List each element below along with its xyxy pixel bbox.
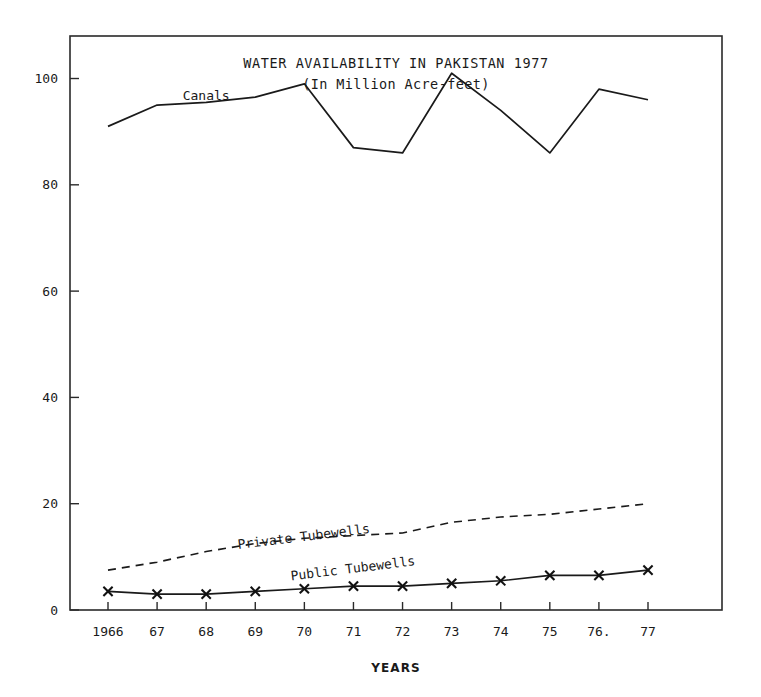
x-axis-ticks [108, 602, 648, 610]
x-axis-tick-label: 68 [198, 624, 214, 639]
y-axis-tick-label: 0 [50, 603, 58, 618]
x-axis-tick-label: 67 [149, 624, 165, 639]
x-axis-tick-label: 76. [587, 624, 610, 639]
x-axis-tick-label: 70 [297, 624, 313, 639]
plot-frame [70, 36, 722, 610]
series-annotation-layer: CanalsPrivate TubewellsPublic Tubewells [183, 88, 416, 584]
y-axis-tick-label: 40 [42, 390, 58, 405]
x-axis-tick-label: 75 [542, 624, 558, 639]
chart-title: WATER AVAILABILITY IN PAKISTAN 1977 [243, 55, 548, 71]
x-axis-tick-label: 72 [395, 624, 411, 639]
y-axis-tick-label: 80 [42, 177, 58, 192]
y-axis-tick-label: 60 [42, 284, 58, 299]
y-axis-tick-label: 20 [42, 496, 58, 511]
x-axis-tick-label: 1966 [92, 624, 123, 639]
chart-figure: WATER AVAILABILITY IN PAKISTAN 1977 (In … [0, 0, 761, 697]
x-axis-tick-labels: 196667686970717273747576.77 [92, 624, 655, 639]
series-line-public-tubewells [108, 570, 648, 594]
x-axis-tick-label: 74 [493, 624, 509, 639]
y-axis-tick-labels: 020406080100 [35, 71, 58, 617]
x-axis-tick-label: 71 [346, 624, 362, 639]
x-axis-tick-label: 77 [640, 624, 656, 639]
series-label-canals: Canals [183, 88, 230, 103]
y-axis-ticks [70, 79, 79, 610]
y-axis-tick-label: 100 [35, 71, 58, 86]
x-axis-title: YEARS [370, 661, 421, 675]
chart-subtitle: (In Million Acre-feet) [302, 76, 490, 92]
x-axis-tick-label: 69 [247, 624, 263, 639]
series-label-private-tubewells: Private Tubewells [237, 521, 371, 552]
chart-svg: WATER AVAILABILITY IN PAKISTAN 1977 (In … [0, 0, 761, 697]
data-series-layer [108, 73, 648, 594]
series-label-public-tubewells: Public Tubewells [290, 553, 416, 583]
x-axis-tick-label: 73 [444, 624, 460, 639]
